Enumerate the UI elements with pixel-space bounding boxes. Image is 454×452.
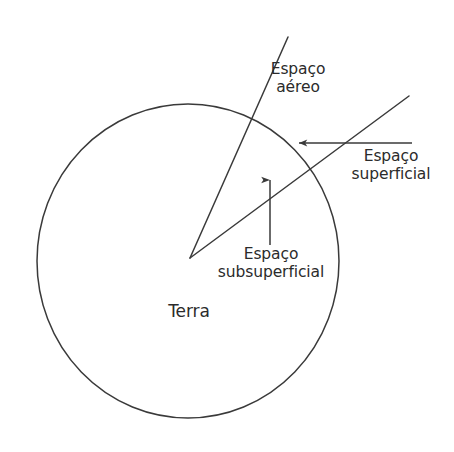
label-espaco-subsuperficial-line2: subsuperficial (196, 264, 346, 282)
label-terra-line1: Terra (134, 302, 244, 321)
label-espaco-aereo-line2: aéreo (228, 79, 368, 97)
label-espaco-aereo-line1: Espaço (228, 61, 368, 79)
label-espaco-subsuperficial-line1: Espaço (196, 246, 346, 264)
label-espaco-aereo: Espaço aéreo (228, 61, 368, 96)
label-espaco-superficial-line1: Espaço (326, 148, 454, 166)
label-espaco-superficial-line2: superficial (326, 166, 454, 184)
diagram-canvas (0, 0, 454, 452)
label-terra: Terra (134, 302, 244, 321)
label-espaco-subsuperficial: Espaço subsuperficial (196, 246, 346, 281)
label-espaco-superficial: Espaço superficial (326, 148, 454, 183)
diagram-container: Espaço aéreo Espaço superficial Espaço s… (0, 0, 454, 452)
